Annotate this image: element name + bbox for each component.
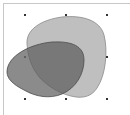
handle-top-center[interactable]: [65, 14, 67, 16]
handle-top-right[interactable]: [106, 14, 108, 16]
handle-middle-right[interactable]: [106, 56, 108, 58]
handle-top-left[interactable]: [24, 14, 26, 16]
handle-bottom-center[interactable]: [65, 98, 67, 100]
shapes-layer: [0, 0, 130, 115]
drawing-canvas[interactable]: [0, 0, 130, 115]
handle-bottom-right[interactable]: [106, 98, 108, 100]
handle-middle-left[interactable]: [24, 56, 26, 58]
handle-bottom-left[interactable]: [24, 98, 26, 100]
